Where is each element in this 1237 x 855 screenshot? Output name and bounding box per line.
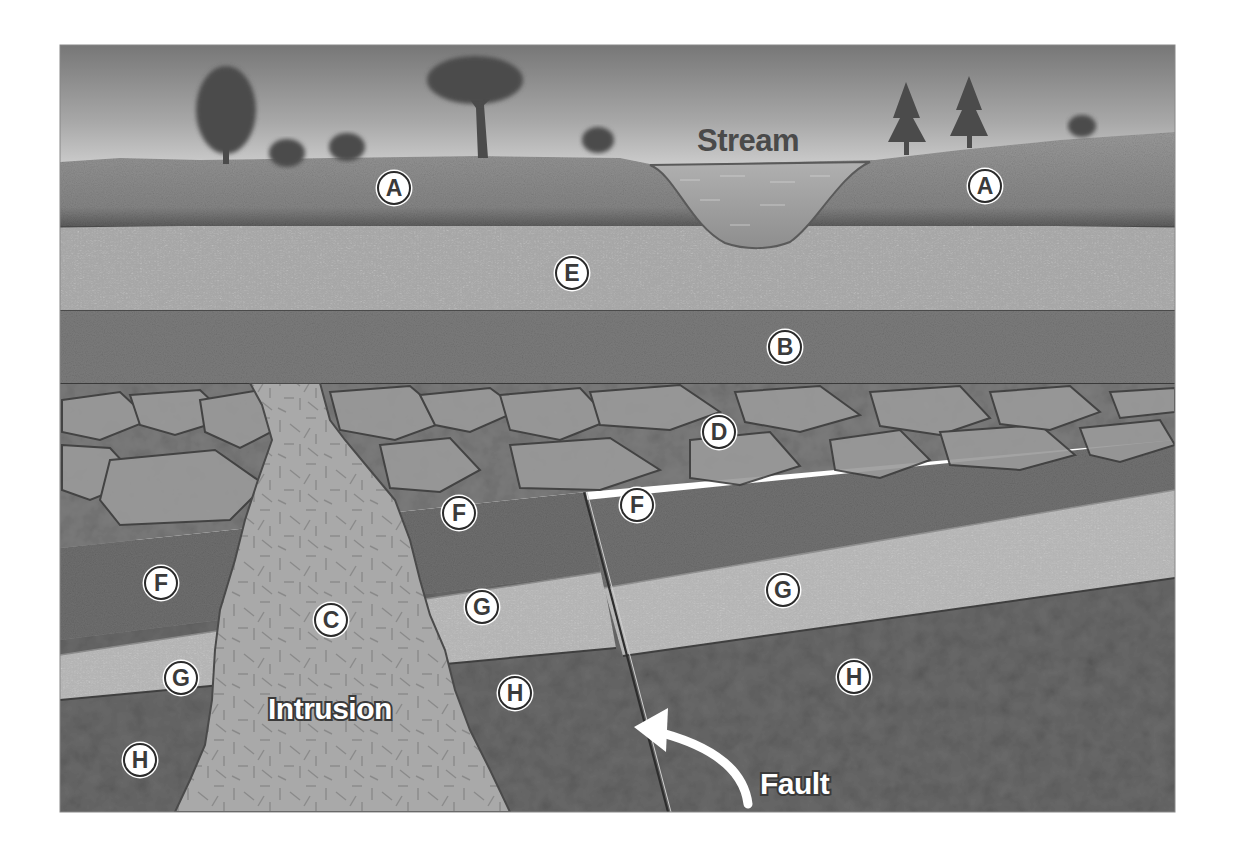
label-f-right: F <box>620 488 654 522</box>
label-a-left: A <box>377 171 411 205</box>
label-e: E <box>555 256 589 290</box>
label-f-middle: F <box>442 496 476 530</box>
label-d: D <box>702 415 736 449</box>
geologic-cross-section: Stream Intrusion Fault A A E B D F F F C… <box>0 0 1237 855</box>
label-g-middle: G <box>465 590 499 624</box>
fault-caption: Fault <box>760 767 829 801</box>
label-h-middle: H <box>498 676 532 710</box>
label-b: B <box>768 330 802 364</box>
layer-e <box>60 226 1175 310</box>
label-f-left: F <box>144 566 178 600</box>
label-c: C <box>314 603 348 637</box>
label-g-left: G <box>164 661 198 695</box>
label-h-left: H <box>123 743 157 777</box>
intrusion-caption: Intrusion <box>268 692 392 726</box>
cross-section-art <box>0 0 1237 855</box>
stream-caption: Stream <box>697 123 799 159</box>
label-h-right: H <box>837 660 871 694</box>
label-g-right: G <box>766 573 800 607</box>
layer-b <box>60 310 1175 383</box>
label-a-right: A <box>968 169 1002 203</box>
